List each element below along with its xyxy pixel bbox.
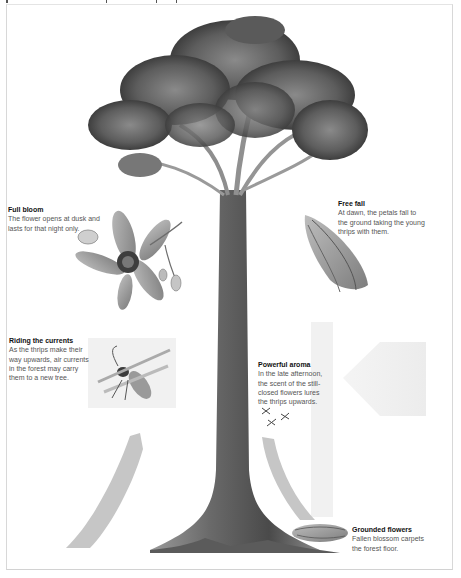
- caption-line: closed flowers lures: [258, 388, 322, 397]
- caption-line: The flower opens at dusk and: [8, 214, 100, 223]
- caption-line: As the thrips make their: [9, 345, 89, 354]
- caption-line: way upwards, air currents: [9, 355, 89, 364]
- caption-line: in the forest may carry: [9, 364, 89, 373]
- caption-riding-the-currents: Riding the currents As the thrips make t…: [9, 336, 89, 382]
- caption-line: lasts for that night only.: [8, 224, 100, 233]
- caption-line: the ground taking the young: [338, 218, 425, 227]
- arrow-left: [343, 342, 426, 416]
- caption-grounded-flowers: Grounded flowers Fallen blossom carpets …: [352, 525, 424, 553]
- diagram-artwork: [0, 0, 461, 578]
- caption-line: the forest floor.: [352, 544, 424, 553]
- thrips-illustration: [88, 338, 176, 408]
- arrow-up-right: [311, 322, 333, 517]
- caption-line: the scent of the still-: [258, 379, 322, 388]
- caption-title: Powerful aroma: [258, 360, 322, 369]
- caption-free-fall: Free fall At dawn, the petals fall to th…: [338, 199, 425, 236]
- fallen-blossom-illustration: [292, 524, 348, 542]
- caption-powerful-aroma: Powerful aroma In the late afternoon, th…: [258, 360, 322, 406]
- arrow-up-left: [66, 433, 143, 548]
- caption-line: In the late afternoon,: [258, 369, 322, 378]
- caption-line: them to a new tree.: [9, 373, 89, 382]
- caption-title: Free fall: [338, 199, 425, 208]
- flying-thrips-illustration: [262, 408, 289, 426]
- arrow-down-right: [262, 437, 315, 520]
- caption-line: the thrips upwards.: [258, 397, 322, 406]
- caption-line: At dawn, the petals fall to: [338, 208, 425, 217]
- caption-title: Riding the currents: [9, 336, 89, 345]
- caption-title: Full bloom: [8, 205, 100, 214]
- caption-line: Fallen blossom carpets: [352, 534, 424, 543]
- caption-full-bloom: Full bloom The flower opens at dusk and …: [8, 205, 100, 233]
- caption-line: thrips with them.: [338, 227, 425, 236]
- caption-title: Grounded flowers: [352, 525, 424, 534]
